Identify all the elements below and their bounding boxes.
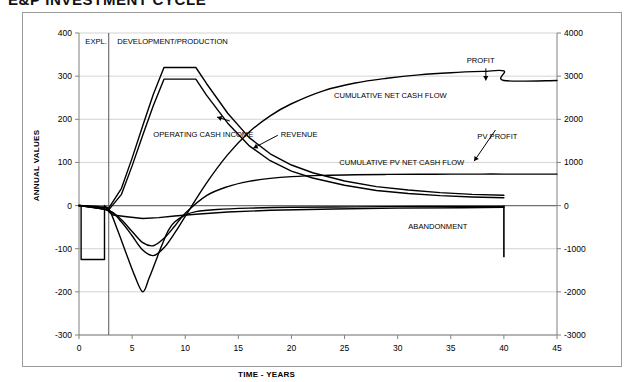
x-tick-label: 25 [340, 343, 350, 353]
x-tick-label: 40 [499, 343, 509, 353]
y-tick-label-left: 0 [67, 201, 72, 211]
x-tick-label: 20 [287, 343, 297, 353]
y-tick-label-right: -1000 [564, 244, 586, 254]
y-tick-label-right: 0 [564, 201, 569, 211]
annotation-pv-profit: PV PROFIT [477, 132, 517, 141]
x-tick-label: 45 [552, 343, 562, 353]
y-tick-label-left: 200 [58, 114, 72, 124]
y-tick-label-right: 3000 [564, 71, 583, 81]
y-tick-label-left: 100 [58, 157, 72, 167]
x-axis-title: TIME - YEARS [238, 370, 295, 379]
annotation-cumulative-pv-net-cash-flow: CUMULATIVE PV NET CASH FLOW [339, 158, 465, 167]
x-tick-label: 0 [77, 343, 82, 353]
page-title: E&P INVESTMENT CYCLE [8, 0, 206, 8]
y-tick-label-left: -300 [55, 330, 72, 340]
profit-arrowhead [483, 76, 488, 81]
pv-profit-arrowhead [474, 156, 479, 161]
y-tick-label-left: 300 [58, 71, 72, 81]
chart-plot-area: -300-200-1000100200300400-3000-2000-1000… [23, 13, 623, 368]
x-tick-label: 30 [393, 343, 403, 353]
y-tick-label-right: -2000 [564, 287, 586, 297]
annotation-expl-: EXPL. [85, 37, 107, 46]
x-tick-label: 15 [234, 343, 244, 353]
y-tick-label-left: 400 [58, 28, 72, 38]
x-tick-label: 10 [180, 343, 190, 353]
annotation-revenue: REVENUE [281, 130, 318, 139]
annotation-profit: PROFIT [467, 56, 495, 65]
y-tick-label-right: 4000 [564, 28, 583, 38]
x-tick-label: 35 [446, 343, 456, 353]
y-tick-label-right: 1000 [564, 157, 583, 167]
series-line-exploration-spend [79, 206, 504, 260]
y-tick-label-left: -200 [55, 287, 72, 297]
y-tick-label-left: -100 [55, 244, 72, 254]
annotation-development-production: DEVELOPMENT/PRODUCTION [117, 37, 228, 46]
annotation-operating-cash-income: OPERATING CASH INCOME [153, 130, 253, 139]
y-tick-label-right: -3000 [564, 330, 586, 340]
chart-page: E&P INVESTMENT CYCLE ANNUAL VALUES CUMUL… [0, 0, 634, 382]
annotation-abandonment: ABANDONMENT [408, 222, 467, 231]
chart-frame: ANNUAL VALUES CUMULATIVE NET CASH FLOW T… [22, 12, 622, 367]
x-tick-label: 5 [130, 343, 135, 353]
series-line-cumulative-net-cash-flow [79, 70, 557, 255]
annotation-cumulative-net-cash-flow: CUMULATIVE NET CASH FLOW [334, 91, 448, 100]
y-tick-label-right: 2000 [564, 114, 583, 124]
